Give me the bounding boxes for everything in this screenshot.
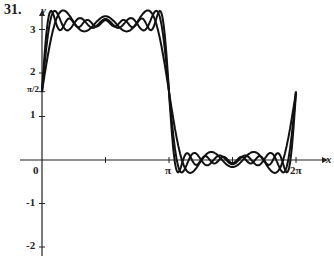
y-tick-neg1: -1: [26, 196, 35, 208]
y-tick-pi-half: π/2: [27, 84, 39, 94]
x-axis-label: x: [326, 153, 332, 165]
x-tick-pi: π: [165, 164, 171, 176]
chart: 31. y x 3 2 π/2 1 -1 -2 0 π 2π: [0, 0, 334, 262]
y-tick-2: 2: [30, 65, 36, 77]
y-tick-3: 3: [30, 23, 36, 35]
y-tick-1: 1: [30, 108, 36, 120]
y-tick-neg2: -2: [26, 239, 35, 251]
x-tick-2pi: 2π: [290, 164, 302, 176]
plot-area: [0, 0, 334, 262]
x-tick-0: 0: [33, 164, 39, 176]
y-axis-label: y: [41, 4, 46, 16]
